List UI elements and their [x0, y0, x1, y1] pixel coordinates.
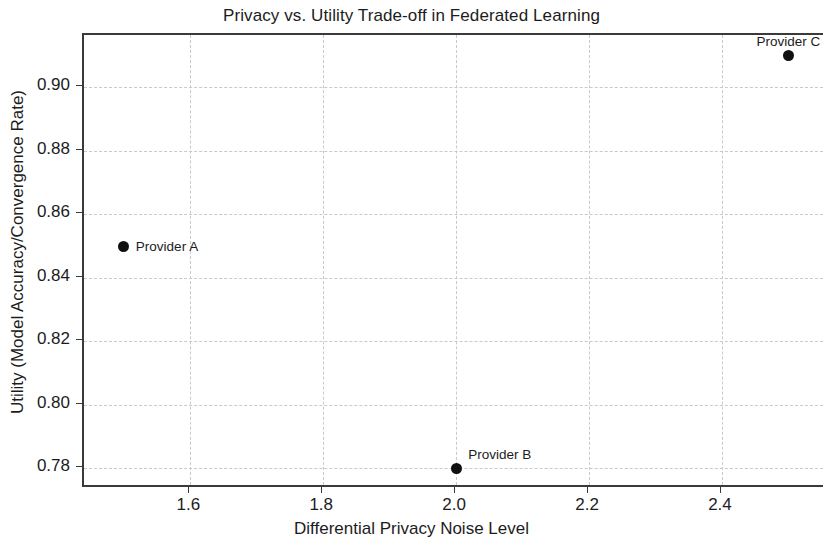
x-tick-label: 2.4	[708, 495, 732, 515]
x-tick-label: 2.0	[442, 495, 466, 515]
x-tick-label: 1.8	[309, 495, 333, 515]
x-tick-mark	[720, 487, 721, 493]
y-tick-label: 0.86	[37, 202, 70, 222]
data-point-marker[interactable]	[783, 50, 794, 61]
plot-area: Provider AProvider BProvider C	[82, 33, 823, 487]
y-tick-mark	[76, 212, 82, 213]
data-point-marker[interactable]	[451, 463, 462, 474]
x-tick-mark	[321, 487, 322, 493]
gridline-vertical	[456, 35, 457, 485]
y-tick-label: 0.78	[37, 456, 70, 476]
data-point-label: Provider B	[468, 447, 531, 462]
x-axis-title: Differential Privacy Noise Level	[0, 519, 823, 539]
gridline-horizontal	[84, 278, 823, 279]
x-tick-label: 2.2	[575, 495, 599, 515]
gridline-horizontal	[84, 151, 823, 152]
y-tick-label: 0.80	[37, 393, 70, 413]
y-tick-label: 0.90	[37, 75, 70, 95]
chart-title: Privacy vs. Utility Trade-off in Federat…	[0, 6, 823, 26]
y-tick-mark	[76, 149, 82, 150]
y-tick-mark	[76, 276, 82, 277]
x-tick-mark	[454, 487, 455, 493]
y-tick-label: 0.88	[37, 139, 70, 159]
gridline-horizontal	[84, 87, 823, 88]
gridline-horizontal	[84, 214, 823, 215]
y-tick-label: 0.84	[37, 266, 70, 286]
gridline-vertical	[323, 35, 324, 485]
gridline-vertical	[722, 35, 723, 485]
gridline-vertical	[589, 35, 590, 485]
data-point-label: Provider C	[757, 34, 821, 49]
gridline-horizontal	[84, 341, 823, 342]
y-tick-mark	[76, 403, 82, 404]
y-tick-label: 0.82	[37, 329, 70, 349]
scatter-chart-figure: Privacy vs. Utility Trade-off in Federat…	[0, 0, 823, 544]
x-tick-label: 1.6	[177, 495, 201, 515]
gridline-horizontal	[84, 405, 823, 406]
data-point-marker[interactable]	[118, 241, 129, 252]
y-tick-mark	[76, 85, 82, 86]
gridline-vertical	[190, 35, 191, 485]
y-tick-mark	[76, 466, 82, 467]
y-tick-mark	[76, 339, 82, 340]
data-point-label: Provider A	[136, 239, 198, 254]
y-axis-title: Utility (Model Accuracy/Convergence Rate…	[8, 22, 28, 482]
x-tick-mark	[188, 487, 189, 493]
x-tick-mark	[587, 487, 588, 493]
